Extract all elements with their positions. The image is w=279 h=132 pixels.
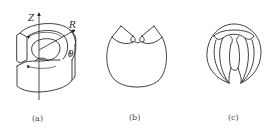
panel-c: (c): [207, 24, 261, 122]
panel-a: Z R θ (a): [17, 13, 76, 123]
theta-label: θ: [68, 49, 74, 59]
panel-a-caption: (a): [32, 114, 43, 123]
panel-b-caption: (b): [129, 113, 140, 122]
panel-c-caption: (c): [228, 113, 239, 122]
r-axis-label: R: [68, 20, 76, 30]
r-axis: [39, 30, 75, 50]
figure-canvas: Z R θ (a) (b): [0, 0, 279, 132]
panel-b: (b): [107, 26, 167, 122]
z-axis-label: Z: [27, 13, 35, 23]
